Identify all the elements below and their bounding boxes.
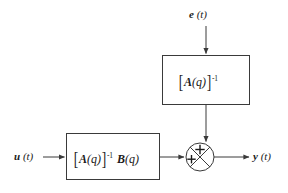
left-bracket-icon: [ (74, 150, 79, 168)
plant-matrix-b: B (117, 152, 125, 166)
block-diagram: e (t) u (t) y (t) [A(q)]-1 [A(q)]-1B(q) (0, 0, 288, 193)
output-argument: (t) (261, 150, 271, 162)
diagram-canvas (0, 0, 288, 193)
noise-filter-block-expression: [A(q)]-1 (178, 73, 218, 91)
noise-filter-argument: (q) (192, 75, 206, 89)
noise-filter-exponent: -1 (212, 74, 218, 83)
right-bracket-icon: ] (207, 73, 212, 91)
plant-block-expression: [A(q)]-1B(q) (73, 150, 139, 168)
right-bracket-icon: ] (102, 150, 107, 168)
plant-argument-b: (q) (125, 152, 139, 166)
plant-matrix-a: A (79, 152, 87, 166)
noise-filter-matrix: A (184, 75, 192, 89)
plant-argument-a: (q) (87, 152, 101, 166)
left-bracket-icon: [ (179, 73, 184, 91)
noise-input-argument: (t) (197, 8, 207, 20)
control-input-label: u (t) (14, 151, 33, 162)
output-label: y (t) (253, 151, 271, 162)
noise-input-label: e (t) (189, 9, 207, 20)
control-input-argument: (t) (23, 150, 33, 162)
plant-exponent: -1 (107, 151, 113, 160)
